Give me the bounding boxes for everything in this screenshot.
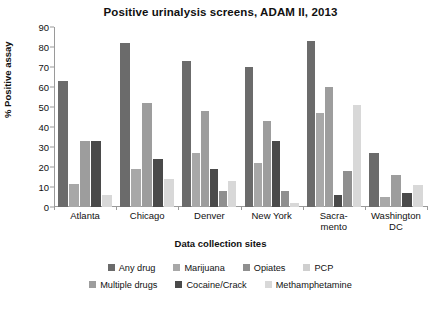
x-axis-category-label-line: Denver [178, 210, 240, 221]
x-axis-category-label: New York [241, 210, 303, 221]
x-axis-category-label: Atlanta [54, 210, 116, 221]
x-axis-tick-mark [427, 206, 428, 210]
x-axis-category-label-line: Chicago [116, 210, 178, 221]
y-axis-tick-mark [50, 47, 54, 48]
x-axis-category-label: Denver [178, 210, 240, 221]
x-axis-category-label-line: Sacra- [303, 210, 365, 221]
y-axis-title: % Positive assay [2, 41, 13, 118]
legend-swatch-icon [265, 281, 272, 288]
bar[interactable] [380, 197, 390, 207]
x-axis-category-label: Sacra-mento [303, 210, 365, 232]
bar[interactable] [91, 141, 101, 207]
bar[interactable] [245, 67, 253, 207]
bar-group-denver [182, 27, 236, 207]
legend-label: Cocaine/Crack [186, 280, 246, 290]
bar[interactable] [102, 195, 112, 207]
bar-group-bars [58, 27, 112, 207]
bar-group-atlanta [58, 27, 112, 207]
legend-label: Any drug [119, 263, 156, 273]
bar[interactable] [210, 169, 218, 207]
bar[interactable] [69, 184, 79, 207]
bar[interactable] [80, 141, 90, 207]
legend-row: Any drugMarijuanaOpiatesPCP [0, 259, 441, 276]
legend-swatch-icon [89, 281, 96, 288]
bar[interactable] [353, 105, 361, 207]
bar[interactable] [281, 191, 289, 207]
chart-container: Positive urinalysis screens, ADAM II, 20… [0, 0, 441, 311]
bar-group-bars [120, 27, 174, 207]
plot-area: 0102030405060708090 [54, 27, 427, 207]
bar[interactable] [334, 195, 342, 207]
bar[interactable] [391, 175, 401, 207]
y-axis-tick-mark [50, 167, 54, 168]
legend-swatch-icon [303, 264, 310, 271]
y-axis-tick-mark [50, 187, 54, 188]
x-axis-category-label-line: Atlanta [54, 210, 116, 221]
bar[interactable] [120, 43, 130, 207]
legend-label: Marijuana [184, 263, 224, 273]
legend-swatch-icon [173, 264, 180, 271]
legend-label: Methamphetamine [276, 280, 352, 290]
bar[interactable] [219, 191, 227, 207]
bar-group-bars [369, 27, 423, 207]
legend-swatch-icon [108, 264, 115, 271]
legend-label: Multiple drugs [100, 280, 157, 290]
x-axis-category-label: Chicago [116, 210, 178, 221]
bar[interactable] [192, 153, 200, 207]
bar[interactable] [316, 113, 324, 207]
x-axis-category-label-line: mento [303, 221, 365, 232]
legend-item-methamphetamine[interactable]: Methamphetamine [265, 280, 352, 290]
bar[interactable] [164, 179, 174, 207]
bar[interactable] [228, 181, 236, 207]
legend-label: PCP [314, 263, 333, 273]
bar[interactable] [325, 87, 333, 207]
bar[interactable] [272, 141, 280, 207]
chart-title: Positive urinalysis screens, ADAM II, 20… [0, 6, 441, 18]
y-axis-tick-mark [50, 27, 54, 28]
legend-item-cocaine-crack[interactable]: Cocaine/Crack [175, 280, 246, 290]
bar[interactable] [131, 169, 141, 207]
y-axis-tick-mark [50, 107, 54, 108]
bar[interactable] [254, 163, 262, 207]
legend-label: Opiates [254, 263, 286, 273]
legend-swatch-icon [175, 281, 182, 288]
x-axis-title: Data collection sites [0, 238, 441, 249]
bar[interactable] [58, 81, 68, 207]
bar-group-chicago [120, 27, 174, 207]
bar[interactable] [369, 153, 379, 207]
legend-item-pcp[interactable]: PCP [303, 263, 333, 273]
bar-group-washington-dc [369, 27, 423, 207]
bar[interactable] [413, 185, 423, 207]
legend-item-marijuana[interactable]: Marijuana [173, 263, 224, 273]
x-axis-category-label-line: DC [365, 221, 427, 232]
y-axis-tick-mark [50, 147, 54, 148]
x-axis-category-label-line: Washington [365, 210, 427, 221]
legend-row: Multiple drugsCocaine/CrackMethamphetami… [0, 276, 441, 293]
bar-group-sacramento [307, 27, 361, 207]
bar[interactable] [290, 203, 298, 207]
bar[interactable] [201, 111, 209, 207]
bar[interactable] [182, 61, 190, 207]
bar-group-bars [307, 27, 361, 207]
y-axis-tick-mark [50, 87, 54, 88]
x-axis-category-label-line: New York [241, 210, 303, 221]
bar-group-bars [182, 27, 236, 207]
chart-legend: Any drugMarijuanaOpiatesPCPMultiple drug… [0, 259, 441, 293]
bar[interactable] [142, 103, 152, 207]
legend-item-multiple-drugs[interactable]: Multiple drugs [89, 280, 157, 290]
y-axis-tick-mark [50, 127, 54, 128]
legend-item-opiates[interactable]: Opiates [243, 263, 286, 273]
legend-swatch-icon [243, 264, 250, 271]
bar[interactable] [343, 171, 351, 207]
bar[interactable] [153, 159, 163, 207]
bar-group-bars [245, 27, 299, 207]
x-axis-category-label: WashingtonDC [365, 210, 427, 232]
legend-item-any-drug[interactable]: Any drug [108, 263, 156, 273]
bar[interactable] [263, 121, 271, 207]
bar[interactable] [307, 41, 315, 207]
y-axis-tick-mark [50, 67, 54, 68]
bar[interactable] [402, 193, 412, 207]
bar-group-new-york [245, 27, 299, 207]
